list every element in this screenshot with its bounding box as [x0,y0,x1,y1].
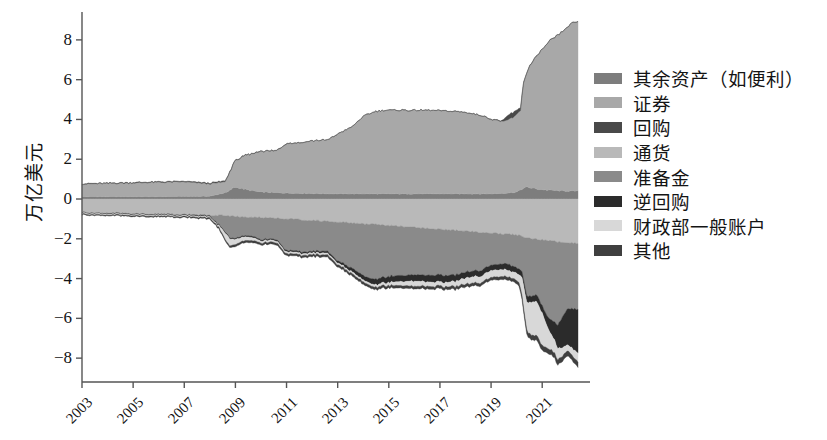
legend-label: 准备金 [633,164,690,190]
y-tick-label: 8 [64,31,73,48]
y-tick-label: −2 [54,230,72,247]
area-series [82,22,578,197]
legend-item[interactable]: 其余资产（如便利） [594,66,827,91]
y-tick-label: 2 [64,150,73,167]
legend-item[interactable]: 其他 [594,238,827,263]
legend-label: 通货 [633,139,671,165]
legend-item[interactable]: 准备金 [594,164,827,189]
legend-swatch-icon [594,97,622,108]
legend-item[interactable]: 逆回购 [594,189,827,214]
legend-label: 逆回购 [633,188,690,214]
stacked-area-chart [0,0,600,440]
legend-label: 财政部一般账户 [633,213,766,239]
legend-swatch-icon [594,122,622,133]
legend-swatch-icon [594,73,622,84]
legend-swatch-icon [594,196,622,207]
y-tick-label: 4 [64,110,73,127]
legend-label: 回购 [633,114,671,140]
y-tick-label: 0 [64,190,73,207]
legend-swatch-icon [594,147,622,158]
plot-area: 万亿美元 86420−2−4−6−8 200320052007200920112… [0,0,600,440]
legend-item[interactable]: 证券 [594,91,827,116]
legend-swatch-icon [594,171,622,182]
y-tick-label: −8 [54,349,72,366]
y-tick-label: −4 [54,270,72,287]
legend-swatch-icon [594,245,622,256]
y-tick-label: −6 [54,309,72,326]
y-axis-title: 万亿美元 [19,102,46,262]
legend-label: 证券 [633,90,671,116]
y-tick-label: 6 [64,71,73,88]
legend-swatch-icon [594,220,622,231]
legend-item[interactable]: 通货 [594,140,827,165]
chart-legend: 其余资产（如便利）证券回购通货准备金逆回购财政部一般账户其他 [594,66,827,263]
chart-figure: 万亿美元 86420−2−4−6−8 200320052007200920112… [0,0,827,440]
legend-label: 其他 [633,237,671,263]
legend-label: 其余资产（如便利） [633,65,804,91]
legend-item[interactable]: 回购 [594,115,827,140]
legend-item[interactable]: 财政部一般账户 [594,214,827,239]
